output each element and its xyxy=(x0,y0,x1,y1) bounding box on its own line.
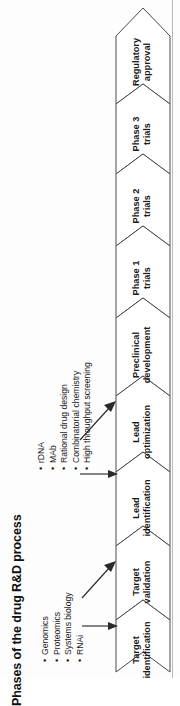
bullet-dot-icon: • xyxy=(36,463,48,470)
bullet-dot-icon: • xyxy=(48,463,60,470)
list-item: •Proteomics xyxy=(52,542,64,662)
list-item: •Combinatorial chemistry xyxy=(71,345,83,470)
list-item: •Systems biology xyxy=(63,542,75,662)
list-item-label: RNAi xyxy=(75,635,85,655)
bullet-dot-icon: • xyxy=(63,655,75,662)
list-item: •rDNA xyxy=(36,345,48,470)
annotation-discovery-technologies: •Genomics •Proteomics •Systems biology •… xyxy=(40,542,86,662)
list-item: •MAb xyxy=(48,345,60,470)
page-title: Phases of the drug R&D process xyxy=(6,376,28,706)
list-item-label: Systems biology xyxy=(63,592,73,655)
list-item-label: High throughput screening xyxy=(82,362,92,463)
bullet-dot-icon: • xyxy=(52,655,64,662)
annotation-lead-technologies: •rDNA •MAb •Rational drug design •Combin… xyxy=(36,345,94,470)
bullet-dot-icon: • xyxy=(40,655,52,662)
chevron-shapes xyxy=(114,6,172,674)
list-item: •Rational drug design xyxy=(59,345,71,470)
process-flow-chevron-band: Regulatory approval Phase 3 trials Phase… xyxy=(114,6,172,674)
list-item: •High throughput screening xyxy=(82,345,94,470)
page-frame-right-rule xyxy=(172,0,173,678)
list-item-label: Rational drug design xyxy=(59,384,69,463)
list-item-label: Genomics xyxy=(40,616,50,655)
list-item: •RNAi xyxy=(75,542,87,662)
bullet-dot-icon: • xyxy=(75,655,87,662)
bullet-dot-icon: • xyxy=(59,463,71,470)
list-item-label: MAb xyxy=(48,445,58,463)
bullet-dot-icon: • xyxy=(71,463,83,470)
list-item-label: Combinatorial chemistry xyxy=(71,371,81,463)
list-item: •Genomics xyxy=(40,542,52,662)
bullet-dot-icon: • xyxy=(82,463,94,470)
list-item-label: Proteomics xyxy=(52,612,62,655)
list-item-label: rDNA xyxy=(36,442,46,463)
